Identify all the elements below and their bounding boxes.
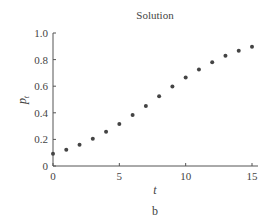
y-tick-label: 0.4: [34, 107, 48, 119]
data-point: [170, 85, 174, 89]
data-point: [104, 130, 108, 134]
x-tick-label: 5: [117, 170, 123, 182]
data-point: [210, 60, 214, 64]
data-point: [64, 148, 68, 152]
y-tick-label: 0: [43, 160, 49, 172]
data-point: [144, 104, 148, 108]
y-tick-label: 0.2: [34, 133, 48, 145]
y-tick-label: 0.6: [34, 80, 48, 92]
chart: Solution 00.20.40.60.81.0 051015 pt t b: [0, 0, 269, 224]
data-point: [184, 76, 188, 80]
x-axis: 051015: [50, 163, 258, 182]
y-axis-label-sub: t: [22, 95, 31, 98]
data-points: [51, 45, 254, 156]
figure-caption: b: [152, 204, 158, 218]
x-axis-label: t: [153, 183, 157, 197]
data-point: [78, 143, 82, 147]
x-tick-label: 10: [180, 170, 192, 182]
data-point: [237, 49, 241, 53]
y-axis-label: pt: [15, 95, 31, 105]
chart-title: Solution: [136, 9, 174, 21]
x-tick-label: 0: [50, 170, 56, 182]
data-point: [131, 113, 135, 117]
y-axis: 00.20.40.60.81.0: [34, 27, 56, 172]
data-point: [117, 122, 121, 126]
x-tick-label: 15: [247, 170, 259, 182]
data-point: [223, 54, 227, 58]
data-point: [91, 137, 95, 141]
data-point: [197, 68, 201, 72]
data-point: [250, 45, 254, 49]
data-point: [51, 152, 55, 156]
y-tick-label: 1.0: [34, 27, 48, 39]
y-axis-label-main: p: [15, 98, 29, 105]
data-point: [157, 94, 161, 98]
y-tick-label: 0.8: [34, 54, 48, 66]
